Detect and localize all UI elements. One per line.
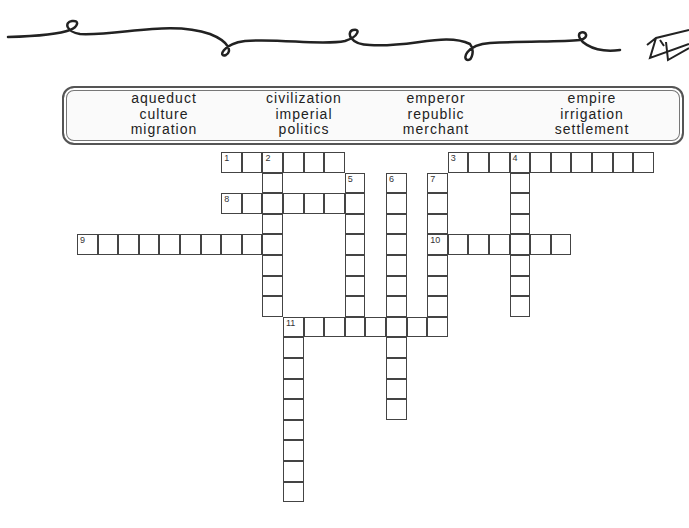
crossword-cell[interactable] <box>262 296 283 317</box>
crossword-cell[interactable] <box>386 214 407 235</box>
clue-number: 11 <box>286 318 295 328</box>
crossword-cell[interactable] <box>510 234 531 255</box>
crossword-cell[interactable] <box>262 214 283 235</box>
crossword-cell[interactable] <box>489 234 510 255</box>
crossword-cell[interactable] <box>262 173 283 194</box>
crossword-cell[interactable] <box>324 152 345 173</box>
crossword-cell[interactable] <box>159 234 180 255</box>
crossword-cell[interactable] <box>98 234 119 255</box>
crossword-cell[interactable] <box>448 234 469 255</box>
clue-number: 7 <box>430 174 435 184</box>
crossword-cell[interactable] <box>283 193 304 214</box>
crossword-cell[interactable] <box>262 255 283 276</box>
crossword-cell[interactable] <box>592 152 613 173</box>
crossword-cell[interactable] <box>283 358 304 379</box>
crossword-cell[interactable]: 6 <box>386 173 407 194</box>
crossword-cell[interactable] <box>386 296 407 317</box>
crossword-cell[interactable] <box>283 379 304 400</box>
crossword-cell[interactable] <box>386 337 407 358</box>
crossword-cell[interactable] <box>510 296 531 317</box>
crossword-cell[interactable]: 7 <box>427 173 448 194</box>
crossword-cell[interactable] <box>551 234 572 255</box>
clue-number: 10 <box>430 235 440 245</box>
crossword-cell[interactable] <box>345 276 366 297</box>
crossword-cell[interactable] <box>345 234 366 255</box>
crossword-cell[interactable] <box>386 255 407 276</box>
crossword-cell[interactable] <box>407 317 428 338</box>
crossword-cell[interactable] <box>283 461 304 482</box>
crossword-cell[interactable] <box>201 234 222 255</box>
clue-number: 6 <box>389 174 394 184</box>
crossword-cell[interactable] <box>427 317 448 338</box>
crossword-cell[interactable] <box>571 152 592 173</box>
crossword-cell[interactable] <box>283 152 304 173</box>
crossword-cell[interactable] <box>221 234 242 255</box>
crossword-cell[interactable] <box>510 173 531 194</box>
clue-number: 9 <box>80 235 85 245</box>
crossword-cell[interactable] <box>510 255 531 276</box>
crossword-cell[interactable] <box>283 399 304 420</box>
crossword-cell[interactable] <box>262 276 283 297</box>
crossword-cell[interactable] <box>345 317 366 338</box>
crossword-cell[interactable] <box>427 214 448 235</box>
crossword-cell[interactable] <box>242 152 263 173</box>
crossword-cell[interactable] <box>304 152 325 173</box>
crossword-cell[interactable]: 9 <box>77 234 98 255</box>
crossword-cell[interactable] <box>242 193 263 214</box>
crossword-cell[interactable] <box>139 234 160 255</box>
crossword-cell[interactable] <box>365 317 386 338</box>
crossword-cell[interactable] <box>304 317 325 338</box>
crossword-cell[interactable] <box>427 255 448 276</box>
crossword-cell[interactable] <box>386 276 407 297</box>
crossword-cell[interactable] <box>180 234 201 255</box>
crossword-cell[interactable] <box>345 214 366 235</box>
crossword-cell[interactable]: 10 <box>427 234 448 255</box>
crossword-cell[interactable]: 8 <box>221 193 242 214</box>
crossword-cell[interactable] <box>386 399 407 420</box>
clue-number: 8 <box>224 194 229 204</box>
crossword-cell[interactable] <box>283 440 304 461</box>
crossword-cell[interactable] <box>530 234 551 255</box>
crossword-cell[interactable] <box>262 234 283 255</box>
crossword-cell[interactable] <box>283 420 304 441</box>
crossword-cell[interactable] <box>386 358 407 379</box>
crossword-cell[interactable] <box>530 152 551 173</box>
clue-number: 2 <box>265 153 270 163</box>
crossword-cell[interactable] <box>283 337 304 358</box>
crossword-cell[interactable] <box>386 234 407 255</box>
crossword-cell[interactable] <box>386 379 407 400</box>
crossword-cell[interactable]: 11 <box>283 317 304 338</box>
clue-number: 3 <box>451 153 456 163</box>
crossword-cell[interactable] <box>345 296 366 317</box>
crossword-cell[interactable]: 5 <box>345 173 366 194</box>
crossword-cell[interactable] <box>489 152 510 173</box>
crossword-cell[interactable] <box>427 193 448 214</box>
crossword-cell[interactable]: 4 <box>510 152 531 173</box>
crossword-cell[interactable] <box>242 234 263 255</box>
crossword-cell[interactable] <box>468 152 489 173</box>
crossword-cell[interactable] <box>551 152 572 173</box>
crossword-cell[interactable] <box>468 234 489 255</box>
crossword-cell[interactable] <box>386 193 407 214</box>
crossword-cell[interactable]: 3 <box>448 152 469 173</box>
crossword-cell[interactable] <box>613 152 634 173</box>
clue-number: 4 <box>513 153 518 163</box>
crossword-cell[interactable] <box>427 276 448 297</box>
crossword-cell[interactable] <box>324 193 345 214</box>
crossword-cell[interactable]: 2 <box>262 152 283 173</box>
crossword-cell[interactable] <box>345 193 366 214</box>
crossword-cell[interactable] <box>304 193 325 214</box>
crossword-cell[interactable] <box>427 296 448 317</box>
crossword-cell[interactable] <box>324 317 345 338</box>
crossword-cell[interactable] <box>510 276 531 297</box>
crossword-cell[interactable] <box>510 214 531 235</box>
crossword-cell[interactable] <box>283 482 304 503</box>
crossword-cell[interactable] <box>510 193 531 214</box>
crossword-cell[interactable] <box>262 193 283 214</box>
crossword-grid: 1234567108911 <box>0 0 689 528</box>
crossword-cell[interactable] <box>633 152 654 173</box>
crossword-cell[interactable]: 1 <box>221 152 242 173</box>
crossword-cell[interactable] <box>345 255 366 276</box>
crossword-cell[interactable] <box>118 234 139 255</box>
crossword-cell[interactable] <box>386 317 407 338</box>
